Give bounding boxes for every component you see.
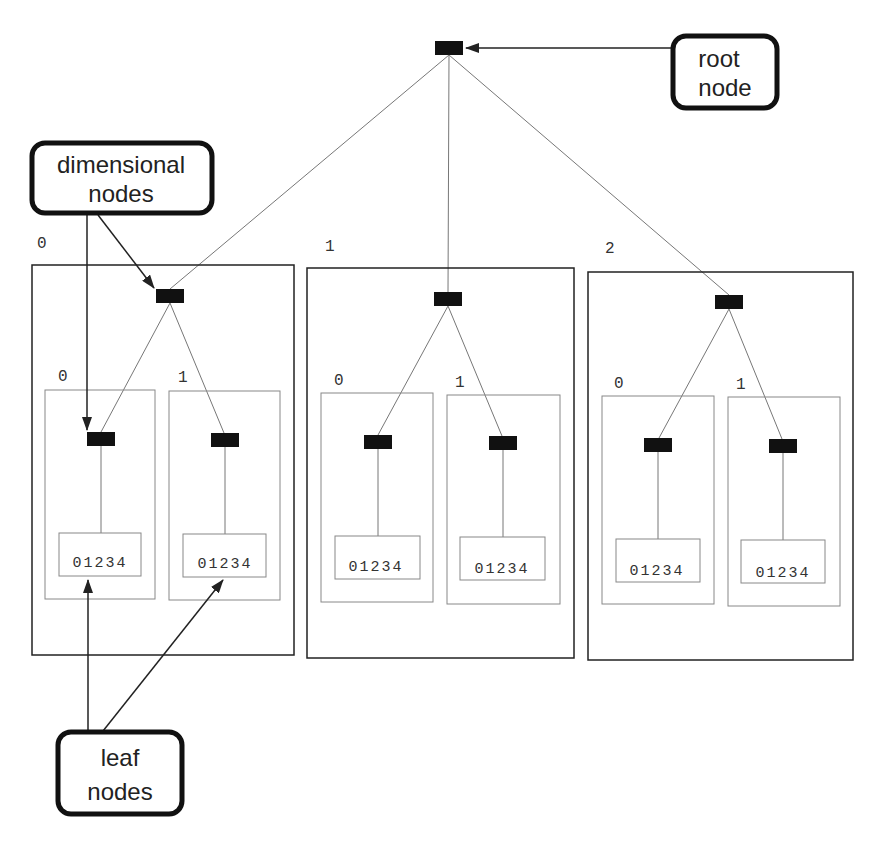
callout-text: root	[698, 45, 740, 72]
group-label: 2	[605, 240, 615, 258]
dimensional-node	[769, 439, 797, 453]
group-2: 2 0 01234 1 01234	[588, 240, 853, 660]
group-frame	[32, 265, 294, 655]
callout-leaf-nodes: leaf nodes	[58, 732, 182, 814]
dimensional-arrow-1	[98, 215, 154, 288]
callout-text: nodes	[87, 778, 152, 805]
subgroup-0: 0 01234	[45, 368, 155, 599]
dimensional-node	[156, 289, 184, 303]
subgroup-1: 1 01234	[728, 376, 840, 606]
dimensional-node	[434, 292, 462, 306]
callout-text: leaf	[101, 744, 140, 771]
leaf-values: 01234	[197, 556, 252, 573]
callout-text: node	[698, 74, 751, 101]
subgroup-label: 0	[334, 372, 344, 390]
callout-text: nodes	[88, 180, 153, 207]
subgroup-1: 1 01234	[169, 369, 280, 600]
callout-dimensional-nodes: dimensional nodes	[32, 143, 212, 213]
tree-diagram: 0 0 01234 1 01234 1 0	[0, 0, 884, 847]
dimensional-node	[87, 432, 115, 446]
group-frame	[307, 268, 574, 658]
group-1: 1 0 01234 1 01234	[307, 238, 574, 658]
group-frame	[588, 272, 853, 660]
leaf-values: 01234	[629, 563, 684, 580]
root-edges	[170, 55, 729, 295]
dimensional-node	[364, 435, 392, 449]
dimensional-node	[715, 295, 743, 309]
dimensional-node	[644, 438, 672, 452]
leaf-values: 01234	[755, 565, 810, 582]
subgroup-label: 0	[614, 375, 624, 393]
subgroup-label: 1	[455, 374, 465, 392]
subgroup-1: 1 01234	[447, 374, 560, 604]
root-node	[435, 41, 463, 55]
group-label: 0	[37, 235, 47, 253]
group-label: 1	[325, 238, 335, 256]
leaf-values: 01234	[348, 559, 403, 576]
group-0: 0 0 01234 1 01234	[32, 235, 294, 655]
subgroup-label: 1	[736, 376, 746, 394]
dimensional-node	[489, 436, 517, 450]
dimensional-node	[211, 433, 239, 447]
leaf-values: 01234	[474, 561, 529, 578]
subgroup-label: 0	[58, 368, 68, 386]
leaf-values: 01234	[72, 555, 127, 572]
subgroup-label: 1	[178, 369, 188, 387]
subgroup-0: 0 01234	[602, 375, 714, 604]
subgroup-0: 0 01234	[321, 372, 433, 602]
callout-root-node: root node	[673, 36, 777, 108]
callout-text: dimensional	[57, 151, 185, 178]
